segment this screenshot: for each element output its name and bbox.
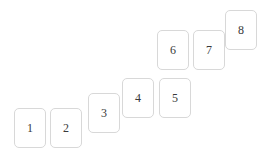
card-4[interactable]: 4 (122, 78, 154, 118)
card-label: 6 (170, 44, 176, 56)
card-label: 8 (238, 24, 244, 36)
card-5[interactable]: 5 (159, 78, 191, 118)
card-2[interactable]: 2 (50, 108, 82, 148)
card-label: 7 (206, 44, 212, 56)
card-1[interactable]: 1 (14, 108, 46, 148)
card-6[interactable]: 6 (157, 30, 189, 70)
card-label: 1 (27, 122, 33, 134)
card-staircase-canvas: 12345678 (0, 0, 268, 157)
card-label: 4 (135, 92, 141, 104)
card-8[interactable]: 8 (225, 10, 257, 50)
card-label: 5 (172, 92, 178, 104)
card-7[interactable]: 7 (193, 30, 225, 70)
card-3[interactable]: 3 (88, 93, 120, 133)
card-label: 3 (101, 107, 107, 119)
card-label: 2 (63, 122, 69, 134)
